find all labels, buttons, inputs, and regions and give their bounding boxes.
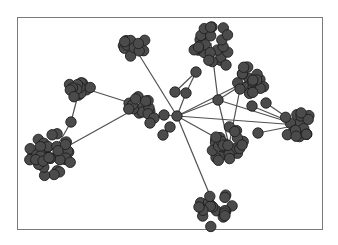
node (230, 126, 240, 136)
node-n9 (247, 101, 257, 111)
cluster-H (207, 122, 248, 166)
network-graph (0, 0, 338, 245)
node (211, 132, 221, 142)
node (248, 75, 258, 85)
cluster-A (118, 35, 150, 61)
node-n10 (261, 98, 271, 108)
node (205, 191, 215, 201)
node (291, 131, 301, 141)
node (141, 96, 151, 106)
node-n11 (253, 128, 263, 138)
node-n1 (159, 110, 169, 120)
node (206, 221, 216, 231)
node (238, 62, 248, 72)
node (213, 155, 223, 165)
cluster-I (194, 190, 238, 232)
node (69, 92, 79, 102)
node (35, 141, 45, 151)
node (206, 22, 216, 32)
node (220, 192, 230, 202)
node (47, 130, 57, 140)
node-n13 (221, 60, 231, 70)
node-n3 (158, 130, 168, 140)
node (222, 30, 232, 40)
node-n8 (213, 95, 223, 105)
cluster-F (25, 129, 76, 181)
node (130, 94, 140, 104)
nodes-layer (25, 22, 314, 232)
node (223, 140, 233, 150)
node (65, 157, 75, 167)
node (237, 140, 247, 150)
node (220, 210, 230, 220)
node (280, 112, 290, 122)
node (194, 202, 204, 212)
node-n14 (235, 84, 245, 94)
node-n15 (145, 118, 155, 128)
node (248, 87, 258, 97)
node (53, 146, 63, 156)
cluster-G (280, 108, 314, 142)
node-n7 (181, 88, 191, 98)
edge (177, 100, 218, 116)
node (193, 42, 203, 52)
node-n5 (191, 67, 201, 77)
node (296, 108, 306, 118)
node (301, 129, 311, 139)
cluster-D (64, 78, 95, 102)
node (124, 104, 134, 114)
node-n6 (170, 87, 180, 97)
node (204, 55, 214, 65)
node (133, 38, 143, 48)
node (44, 152, 54, 162)
node (120, 37, 130, 47)
node-hub (172, 111, 182, 121)
node-n12 (66, 117, 76, 127)
node (85, 82, 95, 92)
node (49, 169, 59, 179)
node (224, 153, 234, 163)
